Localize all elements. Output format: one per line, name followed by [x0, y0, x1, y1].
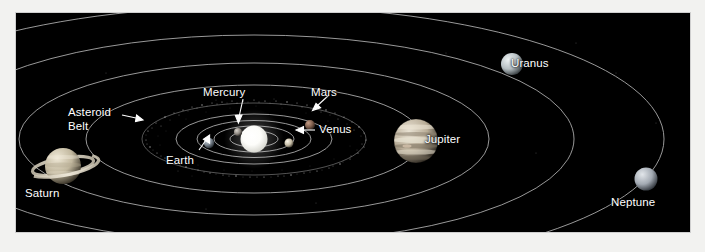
label-asteroid-belt-line1: Asteroid: [68, 106, 111, 118]
label-asteroid-belt-line2: Belt: [68, 120, 88, 132]
asteroid-belt-leader-arrow: [122, 115, 143, 122]
planet-mercury: [234, 128, 242, 136]
label-mars: Mars: [311, 86, 337, 99]
label-saturn: Saturn: [25, 187, 59, 200]
planet-venus: [285, 139, 294, 148]
label-mercury: Mercury: [203, 86, 245, 99]
solar-system-figure: Mercury Mars Venus Earth AsteroidBelt Ju…: [0, 0, 705, 252]
label-jupiter: Jupiter: [425, 133, 460, 146]
planet-neptune: [635, 168, 658, 191]
label-uranus: Uranus: [511, 57, 549, 70]
label-venus: Venus: [319, 123, 351, 136]
label-earth: Earth: [166, 154, 194, 167]
planet-saturn: [31, 148, 100, 184]
sun: [224, 109, 284, 169]
label-asteroid-belt: AsteroidBelt: [68, 106, 111, 133]
orbit-diagram-svg: [16, 13, 690, 232]
space-canvas: Mercury Mars Venus Earth AsteroidBelt Ju…: [16, 13, 690, 232]
planet-mars: [305, 120, 315, 130]
label-neptune: Neptune: [611, 196, 655, 209]
